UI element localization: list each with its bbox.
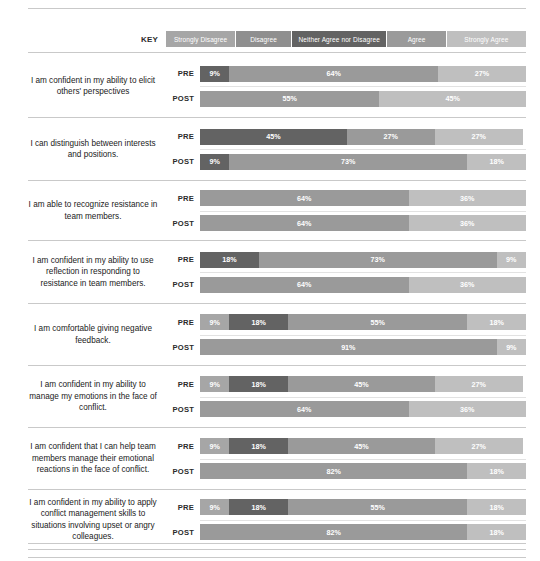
bar-segment[interactable]: 9% xyxy=(200,66,229,82)
chart-row: I am confident that I can help team memb… xyxy=(28,428,526,490)
bar-segment-value: 64% xyxy=(297,219,311,228)
bar-segment[interactable]: 36% xyxy=(409,215,526,231)
bar-segment[interactable]: 55% xyxy=(200,91,379,107)
bar-segment[interactable]: 55% xyxy=(288,314,467,330)
bar-segment-value: 55% xyxy=(282,94,296,103)
bar-segment[interactable]: 18% xyxy=(467,524,526,540)
bar-segment[interactable]: 64% xyxy=(200,190,409,206)
bar-segment[interactable]: 45% xyxy=(379,91,526,107)
bar-segment-value: 64% xyxy=(297,194,311,203)
bar-segment[interactable]: 18% xyxy=(467,499,526,515)
bar-segment[interactable]: 82% xyxy=(200,524,467,540)
legend-item-0[interactable]: Strongly Disagree xyxy=(166,31,236,47)
pre-bar-stack: 45%27%27% xyxy=(200,129,526,145)
post-label: POST xyxy=(166,280,200,289)
chart-legend: KEY Strongly DisagreeDisagreeNeither Agr… xyxy=(28,31,526,47)
legend-item-4[interactable]: Strongly Agree xyxy=(447,31,526,47)
post-label: POST xyxy=(166,405,200,414)
bar-segment[interactable]: 18% xyxy=(467,154,526,170)
row-bars: PRE9%64%27%POST55%45% xyxy=(166,66,526,107)
bar-segment-value: 55% xyxy=(370,318,384,327)
bar-segment-value: 73% xyxy=(341,157,355,166)
bar-segment[interactable]: 18% xyxy=(229,499,288,515)
bar-segment-value: 55% xyxy=(370,503,384,512)
row-inner-divider xyxy=(166,268,526,277)
bar-segment[interactable]: 64% xyxy=(200,277,409,293)
pre-bar-row: PRE9%18%55%18% xyxy=(166,314,526,330)
divider-top xyxy=(28,8,526,9)
bar-segment[interactable]: 9% xyxy=(497,252,526,268)
legend-item-2[interactable]: Neither Agree nor Disagree xyxy=(292,31,387,47)
pre-bar-stack: 9%64%27% xyxy=(200,66,526,82)
bar-segment[interactable]: 18% xyxy=(229,438,288,454)
bar-segment[interactable]: 36% xyxy=(409,401,526,417)
bar-segment[interactable]: 64% xyxy=(200,401,409,417)
bar-segment[interactable]: 27% xyxy=(435,438,523,454)
bar-segment[interactable]: 9% xyxy=(200,376,229,392)
pre-label: PRE xyxy=(166,255,200,264)
pre-bar-row: PRE9%18%45%27% xyxy=(166,376,526,392)
bar-segment[interactable]: 64% xyxy=(200,215,409,231)
row-bars: PRE9%18%55%18%POST91%9% xyxy=(166,314,526,355)
divider-bottom-2 xyxy=(28,557,526,558)
post-label: POST xyxy=(166,219,200,228)
post-bar-row: POST82%18% xyxy=(166,463,526,479)
chart-row: I am confident in my ability to apply co… xyxy=(28,490,526,550)
bar-segment[interactable]: 27% xyxy=(347,129,435,145)
bar-segment[interactable]: 91% xyxy=(200,339,497,355)
divider-under-legend xyxy=(28,52,526,53)
bar-segment-value: 9% xyxy=(506,255,516,264)
bar-segment[interactable]: 9% xyxy=(200,314,229,330)
bar-segment[interactable]: 55% xyxy=(288,499,467,515)
bar-segment[interactable]: 18% xyxy=(467,314,526,330)
bar-segment-value: 9% xyxy=(209,442,219,451)
bar-segment[interactable]: 64% xyxy=(229,66,438,82)
bar-segment[interactable]: 36% xyxy=(409,190,526,206)
bar-segment[interactable]: 82% xyxy=(200,463,467,479)
bar-segment-value: 18% xyxy=(251,318,265,327)
bar-segment[interactable]: 45% xyxy=(288,438,435,454)
pre-bar-row: PRE45%27%27% xyxy=(166,129,526,145)
bar-segment-value: 9% xyxy=(209,380,219,389)
bar-segment[interactable]: 9% xyxy=(200,154,229,170)
bar-segment-value: 27% xyxy=(472,380,486,389)
bar-segment[interactable]: 73% xyxy=(229,154,467,170)
bar-segment[interactable]: 36% xyxy=(409,277,526,293)
pre-bar-row: PRE18%73%9% xyxy=(166,252,526,268)
bar-segment[interactable]: 9% xyxy=(200,438,229,454)
bar-segment[interactable]: 18% xyxy=(200,252,259,268)
bar-segment-value: 9% xyxy=(209,503,219,512)
post-label: POST xyxy=(166,528,200,537)
pre-bar-stack: 9%18%45%27% xyxy=(200,376,526,392)
row-inner-divider xyxy=(166,206,526,215)
bar-segment[interactable]: 18% xyxy=(229,314,288,330)
bar-segment[interactable]: 27% xyxy=(435,129,523,145)
bar-segment[interactable]: 45% xyxy=(200,129,347,145)
bar-segment-value: 18% xyxy=(251,380,265,389)
post-bar-row: POST55%45% xyxy=(166,91,526,107)
bar-segment[interactable]: 9% xyxy=(497,339,526,355)
post-bar-row: POST9%73%18% xyxy=(166,154,526,170)
bar-segment[interactable]: 73% xyxy=(259,252,497,268)
bar-segment[interactable]: 9% xyxy=(200,499,229,515)
row-inner-divider xyxy=(166,454,526,463)
bar-segment[interactable]: 18% xyxy=(229,376,288,392)
pre-bar-stack: 18%73%9% xyxy=(200,252,526,268)
pre-bar-row: PRE9%18%45%27% xyxy=(166,438,526,454)
post-bar-stack: 82%18% xyxy=(200,524,526,540)
legend-item-3[interactable]: Agree xyxy=(387,31,446,47)
pre-label: PRE xyxy=(166,503,200,512)
bar-segment[interactable]: 27% xyxy=(438,66,526,82)
bar-segment[interactable]: 18% xyxy=(467,463,526,479)
bar-segment[interactable]: 45% xyxy=(288,376,435,392)
bar-segment[interactable]: 27% xyxy=(435,376,523,392)
bar-segment-value: 18% xyxy=(489,157,503,166)
post-label: POST xyxy=(166,157,200,166)
post-bar-row: POST82%18% xyxy=(166,524,526,540)
legend-item-1[interactable]: Disagree xyxy=(236,31,292,47)
bar-segment-value: 64% xyxy=(297,405,311,414)
bar-segment-value: 9% xyxy=(506,343,516,352)
bar-segment-value: 45% xyxy=(445,94,459,103)
post-bar-stack: 82%18% xyxy=(200,463,526,479)
post-bar-row: POST91%9% xyxy=(166,339,526,355)
